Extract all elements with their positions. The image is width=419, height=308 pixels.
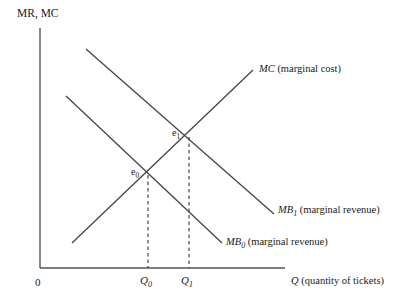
x-tick-q0-symbol: Q	[140, 274, 148, 286]
plot-canvas	[0, 0, 419, 308]
equilibrium-e1-subscript: 1	[176, 132, 180, 141]
equilibrium-label-e0: e0	[131, 167, 139, 180]
x-tick-q1-symbol: Q	[181, 274, 189, 286]
curve-label-mb0-text: (marginal revenue)	[248, 236, 328, 247]
y-axis-title: MR, MC	[17, 8, 59, 20]
x-axis-title-symbol: Q	[291, 275, 299, 286]
curve-label-mc-symbol: MC	[259, 63, 275, 74]
curve-label-mc-text: (marginal cost)	[277, 63, 341, 74]
origin-label: 0	[35, 277, 41, 288]
curve-label-mb0: MB0 (marginal revenue)	[226, 237, 328, 250]
x-tick-q0-subscript: 0	[148, 280, 152, 289]
curve-label-mb1: MB1 (marginal revenue)	[278, 205, 380, 218]
x-tick-label-q0: Q0	[140, 275, 152, 289]
economics-diagram: MR, MC MC (marginal cost) MB1 (marginal …	[0, 0, 419, 308]
x-axis-title-text: (quantity of tickets)	[301, 275, 384, 286]
curve-label-mc: MC (marginal cost)	[259, 64, 341, 75]
x-tick-q1-subscript: 1	[189, 280, 193, 289]
curve-label-mb0-symbol: MB	[226, 236, 241, 247]
curve-mc	[72, 70, 253, 243]
curve-mb0	[66, 96, 222, 243]
curve-label-mb1-text: (marginal revenue)	[300, 204, 380, 215]
equilibrium-e0-subscript: 0	[135, 171, 139, 180]
curve-label-mb1-symbol: MB	[278, 204, 293, 215]
equilibrium-label-e1: e1	[172, 128, 180, 141]
x-tick-label-q1: Q1	[181, 275, 193, 289]
x-axis-title: Q (quantity of tickets)	[291, 276, 384, 287]
